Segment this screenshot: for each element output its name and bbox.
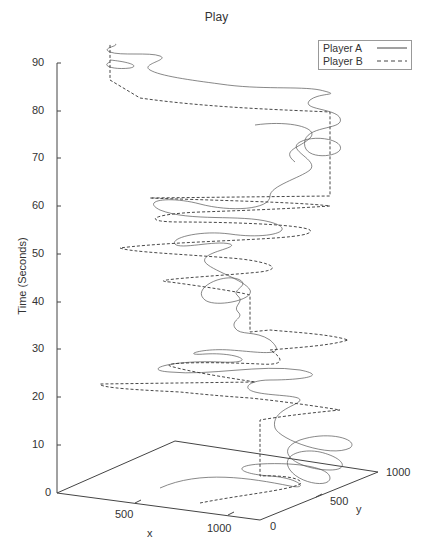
legend: Player A Player B: [318, 40, 412, 70]
z-tick-70: 70: [32, 151, 44, 163]
series-player-a: [107, 44, 352, 488]
z-tick-0: 0: [45, 486, 51, 498]
dashed-line-icon: [377, 60, 407, 62]
z-tick-10: 10: [32, 438, 44, 450]
legend-label-player-a: Player A: [323, 42, 362, 54]
legend-label-player-b: Player B: [323, 55, 363, 67]
legend-item-player-b: Player B: [319, 55, 411, 67]
solid-line-icon: [377, 47, 407, 49]
y-axis-label: y: [356, 503, 362, 515]
z-tick-20: 20: [32, 390, 44, 402]
z-tick-40: 40: [32, 295, 44, 307]
z-axis: [57, 63, 61, 493]
y-tick-1000: 1000: [386, 466, 410, 478]
base-plane: [57, 441, 378, 520]
chart-3d-trajectory: Play 90 80 7: [0, 0, 433, 555]
y-tick-500: 500: [330, 495, 348, 507]
z-tick-90: 90: [32, 56, 44, 68]
z-tick-80: 80: [32, 104, 44, 116]
plot-area: [0, 0, 433, 555]
z-axis-label: Time (Seconds): [16, 226, 28, 326]
y-tick-0: 0: [270, 520, 276, 532]
x-tick-500: 500: [115, 508, 133, 520]
z-tick-50: 50: [32, 247, 44, 259]
x-axis-label: x: [147, 527, 153, 539]
legend-item-player-a: Player A: [319, 42, 411, 54]
z-tick-30: 30: [32, 342, 44, 354]
z-tick-60: 60: [32, 199, 44, 211]
x-tick-1000: 1000: [207, 522, 231, 534]
